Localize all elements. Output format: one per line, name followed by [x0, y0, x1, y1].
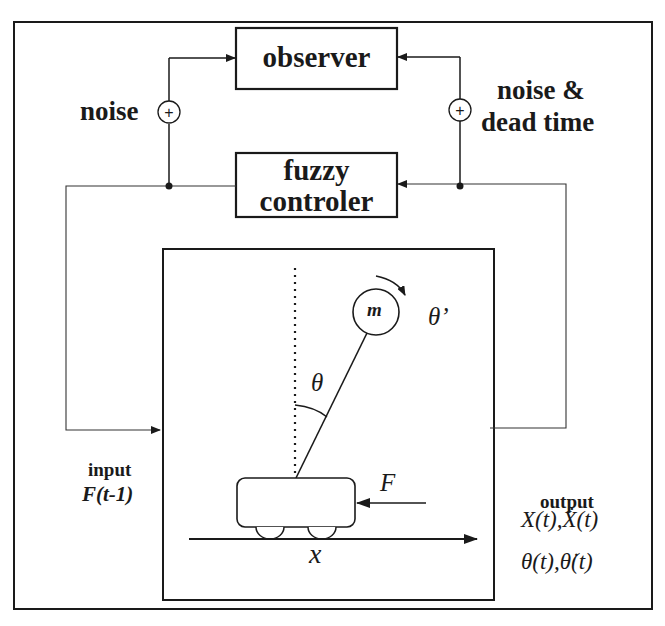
plant-block: [163, 249, 494, 600]
observer-label: observer: [236, 41, 397, 74]
sum-plus-left: +: [164, 104, 173, 121]
mass-label: m: [367, 300, 382, 319]
sum-plus-right: +: [455, 102, 464, 119]
noise-label-right-line1: noise &: [497, 77, 585, 104]
angle-label: θ: [311, 370, 323, 395]
junction-dot-right: [457, 183, 464, 190]
force-label: F: [380, 470, 395, 495]
fuzzy-controller-label-line1: fuzzy: [236, 154, 397, 187]
junction-dot-left: [166, 183, 173, 190]
output-state-position: X(t),Ẋ(t): [521, 508, 598, 531]
angular-velocity-label: θ’: [428, 304, 449, 329]
noise-label-right-line2: dead time: [481, 109, 594, 136]
input-title: input: [88, 460, 131, 479]
noise-label-left: noise: [80, 98, 139, 125]
output-state-angle: θ(t),θ̇(t): [521, 550, 593, 573]
fuzzy-controller-label-line2: controler: [236, 185, 397, 218]
position-label: x: [309, 540, 321, 568]
cart-body: [237, 478, 355, 527]
input-signal: F(t-1): [82, 484, 133, 505]
